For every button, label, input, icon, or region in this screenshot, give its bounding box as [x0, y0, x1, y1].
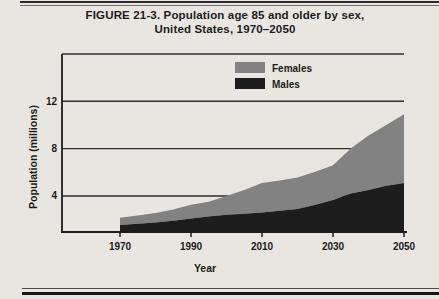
population-area-chart: 4812 19701990201020302050 Females Males … [0, 0, 439, 299]
x-tick-label: 2030 [322, 241, 345, 252]
bottom-rule [22, 288, 439, 295]
area-layer [120, 114, 404, 232]
x-tick-label: 2010 [251, 241, 274, 252]
x-tick-label: 1970 [109, 241, 132, 252]
legend-females-label: Females [272, 63, 312, 74]
x-axis-title: Year [194, 262, 216, 274]
y-tick-label: 8 [51, 143, 57, 154]
legend-males-swatch [235, 78, 265, 89]
legend-males-label: Males [272, 79, 300, 90]
x-tick-label: 2050 [393, 241, 416, 252]
legend: Females Males [235, 62, 312, 90]
y-axis-title: Population (millions) [27, 105, 39, 209]
legend-females-swatch [235, 62, 265, 73]
y-tick-label: 12 [46, 96, 58, 107]
figure-page: FIGURE 21-3. Population age 85 and older… [0, 0, 439, 299]
y-tick-label: 4 [51, 190, 57, 201]
x-tick-label: 1990 [180, 241, 203, 252]
